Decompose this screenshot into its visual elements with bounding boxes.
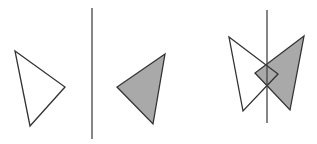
reflection-diagram — [0, 0, 317, 144]
diagram-canvas — [0, 0, 317, 144]
reflected-triangle-overlap — [255, 36, 304, 110]
reflected-triangle — [117, 54, 165, 124]
original-triangle — [15, 51, 65, 126]
